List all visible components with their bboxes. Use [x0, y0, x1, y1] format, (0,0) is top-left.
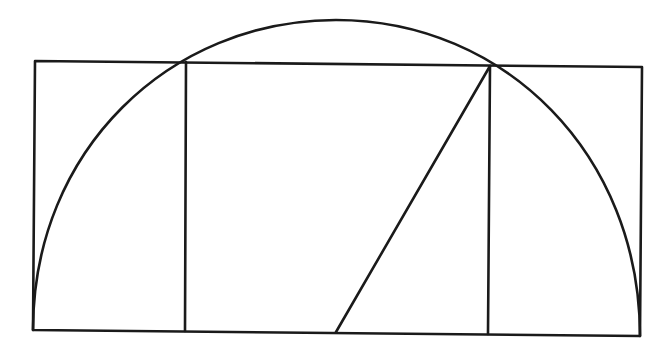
diagram-canvas	[0, 0, 665, 353]
diagonal-line	[336, 66, 490, 332]
outer-rectangle	[33, 61, 642, 336]
semicircle-arc	[33, 20, 640, 336]
right-divider	[488, 66, 490, 334]
golden-ratio-diagram	[0, 0, 665, 353]
left-divider	[185, 62, 186, 331]
